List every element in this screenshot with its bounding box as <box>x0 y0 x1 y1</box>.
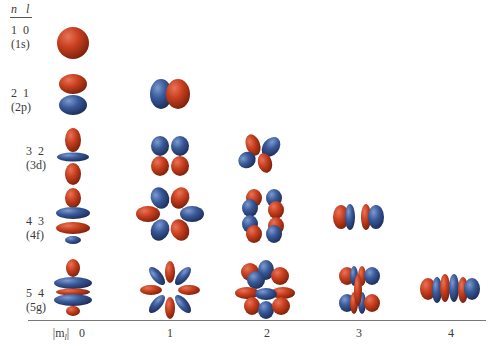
orbital-5g-m1 <box>140 261 200 319</box>
orbital-5g-m4 <box>420 274 480 303</box>
orbital-5g-m3 <box>339 266 380 314</box>
orbital-5g-m2 <box>235 260 295 319</box>
orbital-4f-m0 <box>56 188 90 244</box>
tick-2: 2 <box>264 326 270 341</box>
orbital-2p-m1 <box>150 79 190 109</box>
tick-4: 4 <box>448 326 454 341</box>
orbital-3d-m1 <box>151 136 189 176</box>
orbital-3d-m0 <box>57 128 89 185</box>
ml-axis <box>28 320 486 321</box>
orbital-4f-m2 <box>242 189 284 243</box>
tick-3: 3 <box>356 326 362 341</box>
tick-0: 0 <box>79 326 85 341</box>
orbital-2p-m0 <box>59 74 87 115</box>
orbital-diagram <box>0 0 503 346</box>
orbital-4f-m1 <box>136 184 204 244</box>
axis-label-ml: |ml| <box>53 326 69 342</box>
orbital-5g-m0 <box>54 259 92 316</box>
orbital-4f-m3 <box>333 204 384 230</box>
orbital-1s-m0 <box>57 27 89 59</box>
tick-1: 1 <box>167 326 173 341</box>
orbital-3d-m2 <box>235 132 284 174</box>
